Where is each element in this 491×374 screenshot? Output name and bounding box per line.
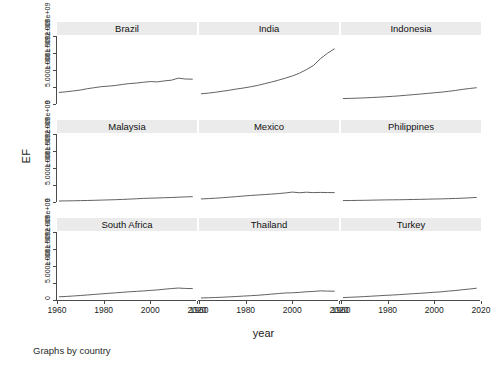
facet-panel-indonesia: Indonesia (341, 22, 481, 118)
x-axis-spine (198, 300, 338, 301)
panel-title-malaysia: Malaysia (57, 120, 197, 133)
y-tick-mark (53, 104, 56, 105)
x-tick-mark (104, 301, 105, 304)
panel-title-brazil: Brazil (57, 22, 197, 35)
panel-title-indonesia: Indonesia (341, 22, 481, 35)
plot-area-malaysia (57, 134, 197, 202)
y-tick-label-group: 05.000e+081.000e+091.500e+092.000e+09 (44, 134, 56, 202)
y-tick-label-group: 05.000e+081.000e+091.500e+092.000e+09 (44, 36, 56, 104)
x-tick-label-group: 1960198020002020 (199, 305, 339, 317)
data-line-indonesia (343, 88, 476, 99)
x-tick-label-group: 1960198020002020 (57, 305, 197, 317)
data-line-india (201, 49, 334, 94)
data-line-brazil (59, 78, 192, 92)
x-tick-label: 2000 (137, 305, 163, 315)
facet-chart-figure: EF year Graphs by country BrazilIndiaInd… (0, 0, 491, 374)
x-tick-label-group: 1960198020002020 (341, 305, 481, 317)
x-tick-mark (481, 301, 482, 304)
panel-title-mexico: Mexico (199, 120, 339, 133)
plot-area-thailand (199, 232, 339, 300)
x-tick-mark (199, 301, 200, 304)
x-tick-label: 2020 (468, 305, 491, 315)
y-tick-mark (53, 202, 56, 203)
x-tick-label: 2000 (421, 305, 447, 315)
x-tick-mark (150, 301, 151, 304)
x-tick-label: 1960 (186, 305, 212, 315)
x-tick-mark (197, 301, 198, 304)
x-tick-label: 2000 (279, 305, 305, 315)
y-axis-spine (56, 134, 57, 202)
x-tick-mark (246, 301, 247, 304)
x-tick-label: 1980 (233, 305, 259, 315)
panel-title-turkey: Turkey (341, 218, 481, 231)
plot-area-turkey (341, 232, 481, 300)
x-axis-spine (340, 300, 480, 301)
plot-area-india (199, 36, 339, 104)
y-tick-label: 0 (44, 296, 51, 300)
figure-note: Graphs by country (33, 345, 111, 356)
x-tick-mark (434, 301, 435, 304)
plot-area-mexico (199, 134, 339, 202)
y-tick-label: 2.000e+09 (44, 199, 51, 232)
y-axis-spine (56, 232, 57, 300)
plot-area-south-africa (57, 232, 197, 300)
plot-area-indonesia (341, 36, 481, 104)
panel-title-thailand: Thailand (199, 218, 339, 231)
x-axis-title: year (0, 327, 491, 339)
x-tick-label: 1960 (44, 305, 70, 315)
y-tick-label: 2.000e+09 (44, 3, 51, 36)
x-axis-spine (56, 300, 196, 301)
facet-panel-malaysia: Malaysia (57, 120, 197, 216)
plot-area-philippines (341, 134, 481, 202)
x-tick-mark (292, 301, 293, 304)
y-tick-label: 2.000e+09 (44, 101, 51, 134)
data-line-turkey (343, 288, 476, 297)
facet-panel-mexico: Mexico (199, 120, 339, 216)
x-tick-mark (339, 301, 340, 304)
x-tick-mark (57, 301, 58, 304)
y-axis-title: EF (20, 136, 32, 176)
data-line-south-africa (59, 288, 192, 297)
data-line-malaysia (59, 197, 192, 201)
data-line-philippines (343, 197, 476, 200)
y-tick-label-group: 05.000e+081.000e+091.500e+092.000e+09 (44, 232, 56, 300)
panel-title-philippines: Philippines (341, 120, 481, 133)
data-line-mexico (201, 192, 334, 199)
x-tick-label: 1980 (91, 305, 117, 315)
y-axis-spine (56, 36, 57, 104)
plot-area-brazil (57, 36, 197, 104)
panel-title-india: India (199, 22, 339, 35)
facet-panel-brazil: Brazil (57, 22, 197, 118)
x-tick-label: 1980 (375, 305, 401, 315)
x-tick-mark (341, 301, 342, 304)
x-tick-label: 1960 (328, 305, 354, 315)
panel-title-south-africa: South Africa (57, 218, 197, 231)
facet-panel-india: India (199, 22, 339, 118)
facet-panel-philippines: Philippines (341, 120, 481, 216)
x-tick-mark (388, 301, 389, 304)
data-line-thailand (201, 291, 334, 298)
